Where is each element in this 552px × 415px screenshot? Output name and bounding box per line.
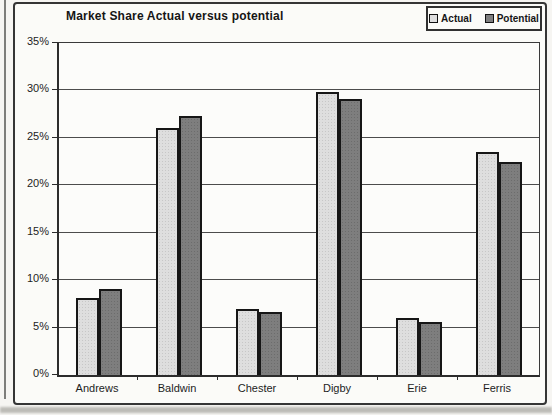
x-axis-category-label: Ferris <box>457 382 537 394</box>
y-axis-tick-label: 10% <box>15 272 49 284</box>
y-axis-tick-label: 5% <box>15 320 49 332</box>
y-axis-tick <box>52 232 57 233</box>
bar-baldwin-actual <box>156 128 179 375</box>
potential-series-swatch-icon <box>485 14 494 23</box>
scan-artifact-band <box>0 407 552 413</box>
x-axis-category-label: Erie <box>377 382 457 394</box>
x-axis-category-label: Digby <box>297 382 377 394</box>
gridline <box>59 327 539 328</box>
bar-erie-actual <box>396 318 419 375</box>
bar-digby-potential <box>339 99 362 375</box>
y-axis-tick <box>52 137 57 138</box>
x-axis-category-label: Andrews <box>57 382 137 394</box>
gridline <box>59 279 539 280</box>
y-axis-tick-label: 20% <box>15 177 49 189</box>
x-axis-tick <box>297 376 298 380</box>
y-axis-tick <box>52 279 57 280</box>
gridline <box>59 184 539 185</box>
actual-series-swatch-icon <box>429 14 438 23</box>
legend-label-actual: Actual <box>441 13 472 24</box>
chart-frame: Market Share Actual versus potential Act… <box>13 2 547 405</box>
y-axis-tick-label: 15% <box>15 225 49 237</box>
x-axis-category-label: Baldwin <box>137 382 217 394</box>
y-axis-tick <box>52 374 57 375</box>
x-axis-tick <box>217 376 218 380</box>
legend-item-potential: Potential <box>485 13 539 24</box>
gridline <box>59 137 539 138</box>
legend: Actual Potential <box>426 6 542 31</box>
bar-erie-potential <box>419 322 442 375</box>
bar-digby-actual <box>316 92 339 375</box>
y-axis-tick-label: 30% <box>15 82 49 94</box>
chart-title: Market Share Actual versus potential <box>66 9 284 23</box>
scanned-page: Market Share Actual versus potential Act… <box>0 0 552 415</box>
x-axis-category-label: Chester <box>217 382 297 394</box>
bar-ferris-actual <box>476 152 499 375</box>
bar-chester-potential <box>259 312 282 375</box>
bar-ferris-potential <box>499 162 522 375</box>
y-axis-tick <box>52 327 57 328</box>
legend-label-potential: Potential <box>497 13 539 24</box>
y-axis-tick <box>52 184 57 185</box>
bar-andrews-actual <box>76 298 99 375</box>
y-axis-tick <box>52 42 57 43</box>
y-axis-tick-label: 25% <box>15 130 49 142</box>
y-axis-tick-label: 0% <box>15 367 49 379</box>
legend-item-actual: Actual <box>429 13 472 24</box>
plot-area <box>57 42 540 377</box>
gridline <box>59 232 539 233</box>
gridline <box>59 89 539 90</box>
x-axis-tick <box>457 376 458 380</box>
bar-baldwin-potential <box>179 116 202 375</box>
x-axis-tick <box>137 376 138 380</box>
y-axis-tick <box>52 89 57 90</box>
bar-chester-actual <box>236 309 259 375</box>
page-edge-line <box>4 0 6 399</box>
x-axis-tick <box>377 376 378 380</box>
y-axis-tick-label: 35% <box>15 35 49 47</box>
bar-andrews-potential <box>99 289 122 375</box>
